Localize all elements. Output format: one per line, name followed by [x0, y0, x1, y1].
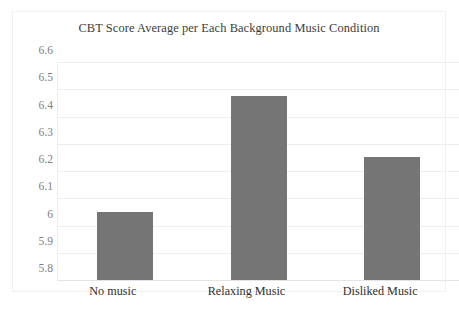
- x-tick-label-disliked-music: Disliked Music: [343, 284, 418, 299]
- y-tick-label-6.6: 6.6: [13, 45, 53, 57]
- chart-title: CBT Score Average per Each Background Mu…: [13, 21, 445, 36]
- bar-disliked-music: [364, 157, 420, 280]
- y-tick-label-6: 6: [13, 209, 53, 221]
- y-tick-label-6.4: 6.4: [13, 100, 53, 112]
- chart-frame: CBT Score Average per Each Background Mu…: [12, 11, 446, 292]
- x-tick-label-no-music: No music: [89, 284, 136, 299]
- bar-relaxing-music: [231, 96, 287, 280]
- y-tick-label-6.2: 6.2: [13, 154, 53, 166]
- y-tick-label-5.8: 5.8: [13, 263, 53, 275]
- y-tick-label-6.1: 6.1: [13, 181, 53, 193]
- gridline-6.6: [58, 62, 459, 63]
- y-axis-tick-labels: 6.66.56.46.36.26.165.95.8: [13, 12, 53, 311]
- plot-area: [58, 62, 459, 280]
- x-tick-label-relaxing-music: Relaxing Music: [208, 284, 286, 299]
- y-tick-label-6.5: 6.5: [13, 72, 53, 84]
- bar-no-music: [97, 212, 153, 280]
- y-tick-label-6.3: 6.3: [13, 127, 53, 139]
- gridline-5.8: [58, 280, 459, 281]
- gridline-6.5: [58, 89, 459, 90]
- y-tick-label-5.9: 5.9: [13, 236, 53, 248]
